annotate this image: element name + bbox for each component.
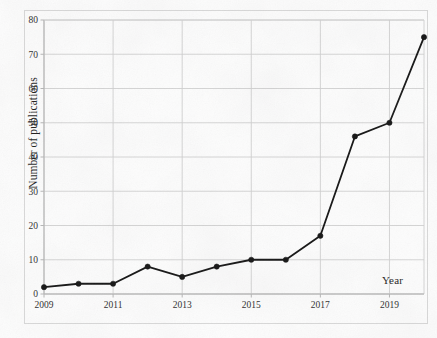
data-point-marker xyxy=(352,134,357,139)
data-point-marker xyxy=(145,264,150,269)
data-point-marker xyxy=(214,264,219,269)
x-tick-label: 2017 xyxy=(311,300,330,310)
y-tick-label: 20 xyxy=(29,221,39,231)
data-point-marker xyxy=(41,285,46,290)
y-axis-title: Number of publications xyxy=(27,53,39,213)
gridlines xyxy=(44,20,424,294)
y-tick-label: 10 xyxy=(29,255,39,265)
data-point-marker xyxy=(249,257,254,262)
x-tick-label: 2019 xyxy=(380,300,399,310)
data-point-marker xyxy=(387,120,392,125)
x-axis-ticks: 200920112013201520172019 xyxy=(35,294,400,310)
data-point-marker xyxy=(318,233,323,238)
data-point-marker xyxy=(283,257,288,262)
x-tick-label: 2015 xyxy=(242,300,261,310)
data-series xyxy=(41,35,426,290)
x-tick-label: 2011 xyxy=(104,300,123,310)
data-point-marker xyxy=(110,281,115,286)
line-chart: 0102030405060708020092011201320152017201… xyxy=(0,0,437,338)
y-tick-label: 80 xyxy=(29,15,39,25)
figure-canvas: 0102030405060708020092011201320152017201… xyxy=(0,0,437,338)
data-point-marker xyxy=(180,274,185,279)
x-tick-label: 2009 xyxy=(35,300,54,310)
data-point-marker xyxy=(421,35,426,40)
series-line xyxy=(44,37,424,287)
x-tick-label: 2013 xyxy=(173,300,192,310)
data-point-marker xyxy=(76,281,81,286)
x-axis-title: Year xyxy=(382,274,403,286)
y-tick-label: 0 xyxy=(33,289,38,299)
